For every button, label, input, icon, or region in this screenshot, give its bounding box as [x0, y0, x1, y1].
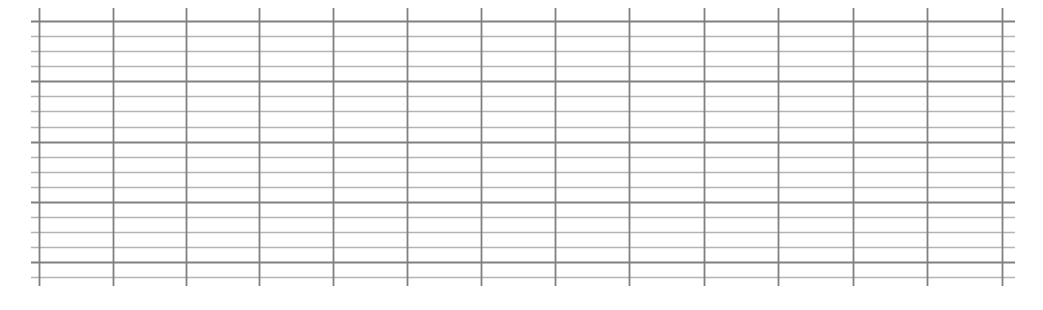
vertical-lines — [40, 8, 1003, 286]
major-horizontal-lines — [31, 22, 1015, 263]
minor-horizontal-lines — [31, 37, 1015, 278]
ruled-grid — [0, 0, 1043, 310]
